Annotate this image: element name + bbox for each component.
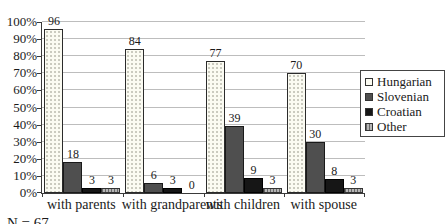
gridline [42, 21, 365, 22]
y-axis-tick-label: 90% [0, 32, 37, 46]
plot-area: 96183384630773993703083 [41, 22, 365, 194]
y-axis-tick [37, 176, 41, 177]
bar-value-label: 3 [338, 173, 368, 187]
bar-value-label: 84 [120, 34, 150, 48]
category-label: with spouse [283, 196, 364, 214]
legend-label: Other [377, 119, 407, 134]
bar-slovenian-3 [225, 126, 244, 193]
y-axis-tick [37, 142, 41, 143]
y-axis-tick-label: 100% [0, 15, 37, 29]
bar-value-label: 0 [177, 178, 207, 192]
bar-value-label: 70 [281, 58, 311, 72]
y-axis-tick-label: 0% [0, 186, 37, 200]
legend-swatch-other [365, 123, 373, 131]
legend-entry-croatian: Croatian [365, 104, 444, 119]
y-axis-tick-label: 20% [0, 152, 37, 166]
y-axis-tick-label: 50% [0, 101, 37, 115]
y-axis-tick [37, 125, 41, 126]
y-axis-tick [37, 108, 41, 109]
gridline [42, 107, 365, 108]
gridline [42, 124, 365, 125]
gridline [42, 72, 365, 73]
y-axis-tick-label: 80% [0, 49, 37, 63]
bar-value-label: 39 [219, 111, 249, 125]
category-label: with children [203, 196, 284, 214]
bar-hungarian-1 [44, 29, 63, 193]
y-axis-tick-label: 30% [0, 135, 37, 149]
bar-other-1 [101, 188, 120, 193]
bar-value-label: 30 [300, 127, 330, 141]
bar-hungarian-3 [206, 61, 225, 193]
y-axis-tick-label: 60% [0, 83, 37, 97]
y-axis-tick [37, 73, 41, 74]
bar-value-label: 96 [39, 14, 69, 28]
legend-entry-other: Other [365, 119, 444, 134]
x-axis-tick [364, 193, 365, 197]
legend-label: Slovenian [377, 89, 429, 104]
category-label: with parents [41, 196, 122, 214]
legend-entry-hungarian: Hungarian [365, 74, 444, 89]
y-axis-tick [37, 56, 41, 57]
bar-value-label: 3 [257, 173, 287, 187]
legend-label: Hungarian [377, 74, 432, 89]
y-axis-tick [37, 192, 41, 193]
legend-swatch-slovenian [365, 93, 373, 101]
bar-croatian-1 [82, 188, 101, 193]
bar-other-4 [344, 188, 363, 193]
legend-label: Croatian [377, 104, 422, 119]
bar-value-label: 3 [96, 173, 126, 187]
gridline [42, 38, 365, 39]
y-axis-tick [37, 159, 41, 160]
y-axis-tick [37, 39, 41, 40]
legend-swatch-croatian [365, 108, 373, 116]
y-axis-tick-label: 10% [0, 169, 37, 183]
legend: HungarianSlovenianCroatianOther [360, 70, 445, 137]
gridline [42, 89, 365, 90]
legend-swatch-hungarian [365, 78, 373, 86]
bar-chart: 96183384630773993703083 0%10%20%30%40%50… [0, 0, 448, 224]
bar-value-label: 18 [58, 147, 88, 161]
bar-value-label: 77 [200, 46, 230, 60]
footnote: N = 67 [7, 215, 49, 224]
y-axis-tick-label: 40% [0, 118, 37, 132]
y-axis-tick-label: 70% [0, 66, 37, 80]
category-label: with grandparents [122, 196, 203, 214]
bar-other-3 [263, 188, 282, 193]
legend-entry-slovenian: Slovenian [365, 89, 444, 104]
y-axis-tick [37, 90, 41, 91]
